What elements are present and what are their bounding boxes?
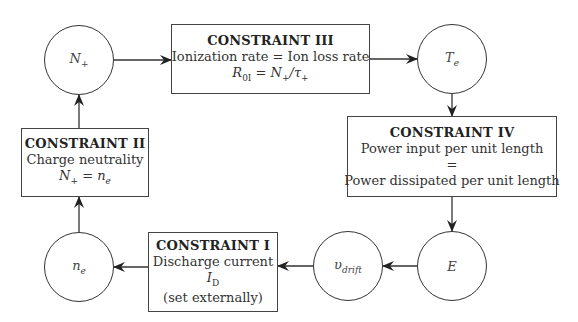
- constraint-ii-title: CONSTRAINT II: [25, 136, 145, 152]
- t-e-label: Te: [445, 50, 459, 68]
- constraint-iii-box: CONSTRAINT III Ionization rate = Ion los…: [171, 24, 370, 94]
- constraint-iv-equals: =: [447, 157, 458, 173]
- constraint-iii-equation: R0I = N+/τ+: [232, 65, 308, 86]
- v-drift-label: υdrift: [334, 257, 362, 275]
- constraint-i-title: CONSTRAINT I: [156, 238, 270, 254]
- constraint-iii-text: Ionization rate = Ion loss rate: [172, 49, 370, 65]
- node-v-drift: υdrift: [313, 231, 383, 301]
- constraint-i-note: (set externally): [163, 290, 263, 306]
- constraint-ii-equation: N+ = ne: [59, 168, 111, 189]
- constraint-iv-title: CONSTRAINT IV: [390, 125, 514, 141]
- constraint-ii-box: CONSTRAINT II Charge neutrality N+ = ne: [21, 128, 149, 197]
- node-n-e: ne: [44, 232, 114, 302]
- e-field-label: E: [447, 259, 457, 274]
- constraint-iii-title: CONSTRAINT III: [207, 33, 334, 49]
- constraint-iv-box: CONSTRAINT IV Power input per unit lengt…: [347, 116, 557, 197]
- constraint-iv-text-2: Power dissipated per unit length: [344, 173, 559, 189]
- constraint-ii-text: Charge neutrality: [27, 152, 144, 168]
- node-n-plus: N+: [44, 25, 114, 95]
- n-e-label: ne: [72, 258, 86, 276]
- n-plus-label: N+: [70, 51, 89, 69]
- node-e-field: E: [417, 231, 487, 301]
- constraint-i-box: CONSTRAINT I Discharge current ID (set e…: [148, 232, 278, 312]
- constraint-iv-text-1: Power input per unit length: [361, 141, 544, 157]
- constraint-i-equation: ID: [207, 270, 219, 291]
- node-t-e: Te: [417, 24, 487, 94]
- constraint-i-text: Discharge current: [153, 254, 273, 270]
